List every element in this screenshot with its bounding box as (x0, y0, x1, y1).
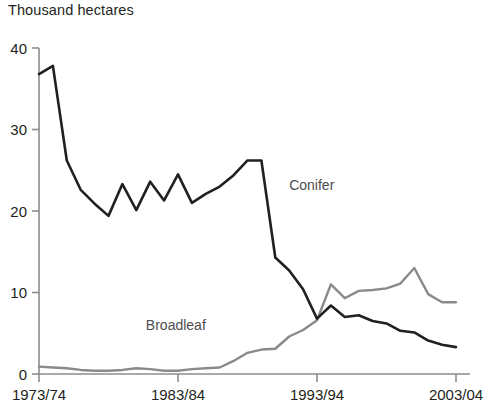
y-tick-label: 40 (10, 40, 27, 57)
series-line-conifer (39, 66, 456, 347)
series-label-broadleaf: Broadleaf (146, 317, 206, 333)
x-axis-ticks: 1973/741983/841993/942003/04 (12, 374, 483, 403)
x-tick-label: 1993/94 (290, 386, 344, 403)
x-tick-label: 1973/74 (12, 386, 66, 403)
series-line-broadleaf (39, 268, 456, 371)
y-tick-label: 20 (10, 203, 27, 220)
series-inline-labels: ConiferBroadleaf (146, 177, 335, 333)
x-tick-label: 2003/04 (429, 386, 483, 403)
series-label-conifer: Conifer (289, 177, 334, 193)
y-axis-ticks: 010203040 (10, 40, 39, 383)
chart-container: Thousand hectares 010203040 1973/741983/… (0, 0, 493, 408)
x-tick-label: 1983/84 (151, 386, 205, 403)
y-tick-label: 10 (10, 284, 27, 301)
line-chart-svg: 010203040 1973/741983/841993/942003/04 C… (0, 0, 493, 408)
y-tick-label: 30 (10, 121, 27, 138)
y-tick-label: 0 (19, 366, 27, 383)
